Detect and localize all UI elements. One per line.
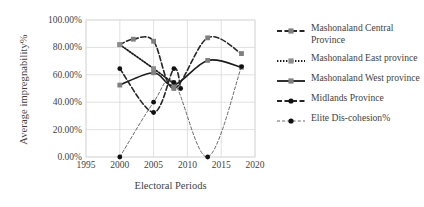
plot-border: [86, 20, 255, 157]
legend-label: Mashonaland Central Province: [311, 22, 423, 45]
data-point: [117, 42, 122, 47]
x-axis-tick-label: 2020: [246, 160, 265, 170]
series-line: [120, 67, 242, 157]
legend-swatch-icon: [276, 73, 306, 85]
data-point: [239, 64, 244, 69]
data-point: [151, 100, 156, 105]
data-point: [205, 155, 210, 160]
x-axis-tick-label: 2000: [110, 160, 129, 170]
x-axis-title: Electoral Periods: [86, 180, 255, 191]
y-axis-tick-label: 100.00%: [48, 15, 82, 25]
data-point: [117, 155, 122, 160]
data-point: [151, 39, 156, 44]
data-point: [117, 66, 122, 71]
plot-svg: [86, 20, 255, 157]
data-point: [131, 37, 136, 42]
data-point: [151, 66, 156, 71]
data-point: [117, 83, 122, 88]
line-chart: Average impregnability% 0.00%20.00%40.00…: [0, 0, 424, 207]
y-axis-tick-label: 80.00%: [53, 42, 82, 52]
data-point: [205, 35, 210, 40]
y-axis-title: Average impregnability%: [18, 15, 29, 165]
plot-area: [86, 20, 255, 157]
y-axis-tick-labels: 0.00%20.00%40.00%60.00%80.00%100.00%: [38, 10, 84, 180]
data-point: [239, 51, 244, 56]
legend-label: Midlands Province: [311, 92, 384, 104]
legend-item[interactable]: Mashonaland East province: [276, 52, 424, 65]
legend-swatch-icon: [276, 93, 306, 105]
legend-label: Mashonaland East province: [311, 52, 418, 64]
series-0: [117, 35, 243, 90]
gridlines: [86, 20, 255, 157]
x-axis-tick-label: 2015: [212, 160, 231, 170]
legend-swatch-icon: [276, 23, 306, 35]
data-point: [171, 66, 176, 71]
legend-item[interactable]: Elite Dis-cohesion%: [276, 112, 424, 125]
data-point: [151, 110, 156, 115]
y-axis-tick-label: 60.00%: [53, 70, 82, 80]
y-axis-tick-label: 20.00%: [53, 125, 82, 135]
x-axis-tick-label: 1995: [77, 160, 96, 170]
x-axis-tick-label: 2005: [144, 160, 163, 170]
legend-item[interactable]: Mashonaland Central Province: [276, 22, 424, 45]
data-point: [205, 58, 210, 63]
x-axis-tick-label: 2010: [178, 160, 197, 170]
legend-swatch-icon: [276, 53, 306, 65]
legend-swatch-icon: [276, 113, 306, 125]
data-point: [178, 86, 183, 91]
legend-item[interactable]: Midlands Province: [276, 92, 424, 105]
y-axis-tick-label: 40.00%: [53, 97, 82, 107]
series-line: [120, 60, 242, 85]
data-point: [151, 70, 156, 75]
legend-item[interactable]: Mashonaland West province: [276, 72, 424, 85]
legend-label: Elite Dis-cohesion%: [311, 112, 390, 124]
series-line: [120, 45, 174, 84]
chart-legend: Mashonaland Central ProvinceMashonaland …: [276, 22, 424, 132]
x-axis-tick-labels: 199520002005201020152020: [86, 160, 255, 176]
legend-label: Mashonaland West province: [311, 72, 420, 84]
data-point: [171, 80, 176, 85]
